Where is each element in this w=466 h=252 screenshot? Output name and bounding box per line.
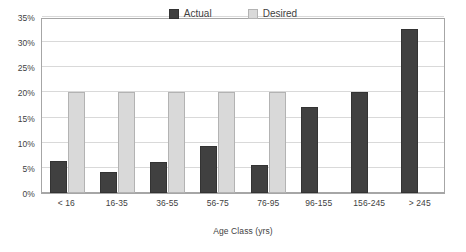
y-tick-label: 10% <box>18 139 35 148</box>
bar-desired[interactable] <box>68 92 85 193</box>
y-axis: 0%5%10%15%20%25%30%35% <box>0 0 40 252</box>
x-tick-label: 56-75 <box>193 199 244 208</box>
x-tick-label: 76-95 <box>243 199 294 208</box>
bar-actual[interactable] <box>150 162 167 193</box>
x-tick-label: 36-55 <box>142 199 193 208</box>
legend-swatch-icon <box>248 9 258 19</box>
legend-item-actual[interactable]: Actual <box>169 9 212 19</box>
bar-actual[interactable] <box>401 29 418 193</box>
bar-desired[interactable] <box>269 92 286 193</box>
bar-actual[interactable] <box>301 107 318 193</box>
bar-group <box>394 19 444 193</box>
plot-area <box>41 18 445 194</box>
y-tick-label: 0% <box>23 190 36 199</box>
x-tick-label: 16-35 <box>92 199 143 208</box>
bar-group <box>92 19 142 193</box>
legend-item-desired[interactable]: Desired <box>248 9 297 19</box>
x-axis-title: Age Class (yrs) <box>41 227 445 236</box>
bar-actual[interactable] <box>351 92 368 193</box>
y-tick-label: 25% <box>18 64 35 73</box>
x-tick-label: < 16 <box>41 199 92 208</box>
bar-desired[interactable] <box>168 92 185 193</box>
y-tick-label: 35% <box>18 14 35 23</box>
bar-group <box>42 19 92 193</box>
x-tick-label: 96-155 <box>294 199 345 208</box>
bar-desired[interactable] <box>218 92 235 193</box>
gridline <box>42 16 444 17</box>
bar-group <box>344 19 394 193</box>
y-tick-label: 15% <box>18 114 35 123</box>
bar-group <box>143 19 193 193</box>
bar-chart: 0%5%10%15%20%25%30%35% ActualDesired < 1… <box>0 0 466 252</box>
x-axis: < 1616-3536-5556-7576-9596-155156-245> 2… <box>41 199 445 208</box>
bar-group <box>243 19 293 193</box>
bar-actual[interactable] <box>251 165 268 193</box>
bar-actual[interactable] <box>50 161 67 193</box>
x-tick-label: > 245 <box>395 199 446 208</box>
legend-label: Actual <box>184 9 212 19</box>
legend-label: Desired <box>263 9 297 19</box>
bar-group <box>293 19 343 193</box>
legend-swatch-icon <box>169 9 179 19</box>
bar-group <box>193 19 243 193</box>
bar-actual[interactable] <box>200 146 217 193</box>
y-tick-label: 20% <box>18 89 35 98</box>
bar-desired[interactable] <box>118 92 135 193</box>
bar-actual[interactable] <box>100 172 117 193</box>
x-tick-label: 156-245 <box>344 199 395 208</box>
y-tick-label: 30% <box>18 39 35 48</box>
y-tick-label: 5% <box>23 165 36 174</box>
bars-layer <box>42 19 444 193</box>
